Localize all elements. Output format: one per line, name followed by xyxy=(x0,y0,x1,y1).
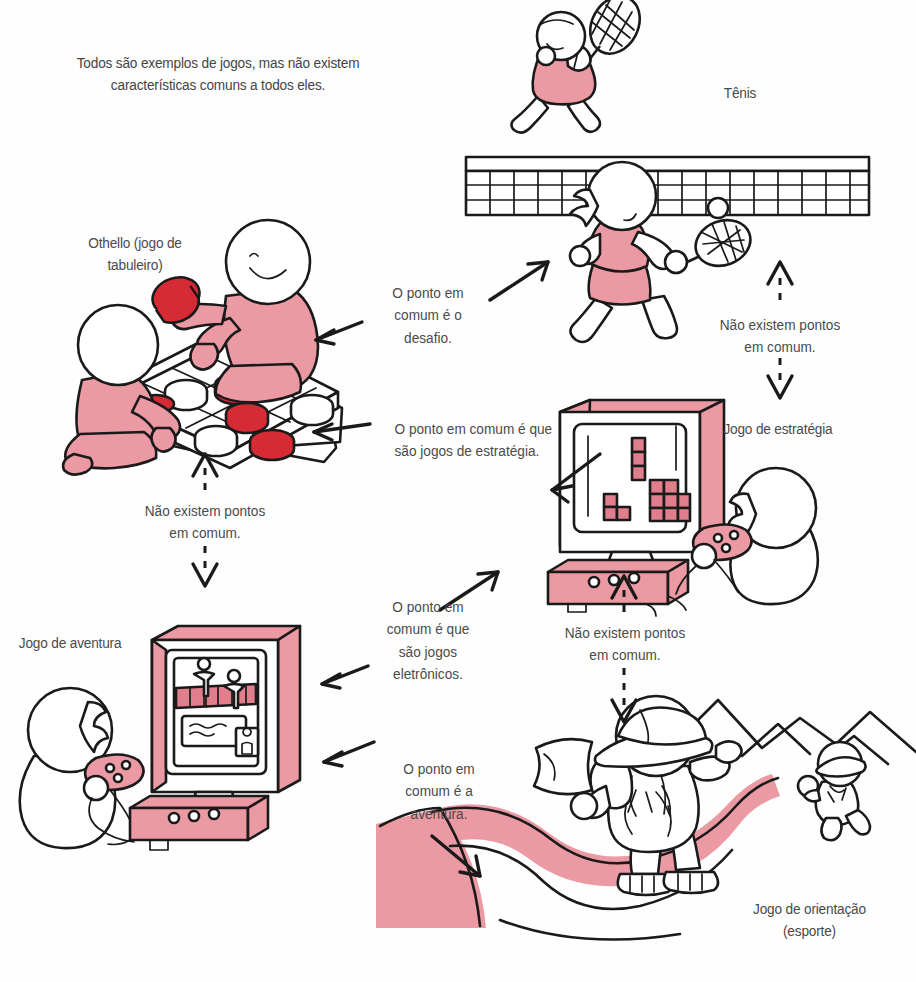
no-common-label-othello-aventura: Não existem pontos em comum. xyxy=(130,500,280,545)
connection-label-othello-estrategia: O ponto em comum é que são jogos de estr… xyxy=(394,418,577,463)
no-common-label-tenis-estrategia: Não existem pontos em comum. xyxy=(710,314,851,359)
figure-canvas: .ol{fill:none;stroke:#1a1a1a;stroke-widt… xyxy=(0,0,916,982)
hiker-distant xyxy=(798,742,870,840)
illustration-tennis xyxy=(466,0,869,342)
caption-orientacao: Jogo de orientação (esporte) xyxy=(724,898,896,942)
tennis-player-far xyxy=(511,0,649,133)
illustration-layer: .ol{fill:none;stroke:#1a1a1a;stroke-widt… xyxy=(0,0,916,982)
adventure-child xyxy=(20,688,144,848)
no-common-label-estrategia-orientacao: Não existem pontos em comum. xyxy=(550,622,700,667)
caption-tenis: Tênis xyxy=(670,82,811,104)
connection-label-aventura-estrategia: O ponto em comum é que são jogos eletrôn… xyxy=(375,596,481,686)
illustration-adventure xyxy=(20,626,300,850)
caption-estrategia: Jogo de estratégia xyxy=(723,418,890,440)
connection-label-aventura-orientacao: O ponto em comum é a aventura. xyxy=(387,758,491,825)
intro-text: Todos são exemplos de jogos, mas não exi… xyxy=(60,52,377,96)
connection-label-othello-tenis: O ponto em comum é o desafio. xyxy=(375,282,481,349)
tennis-ball xyxy=(708,198,728,218)
tennis-net xyxy=(466,157,869,215)
caption-othello: Othello (jogo de tabuleiro) xyxy=(51,232,218,276)
caption-aventura: Jogo de aventura xyxy=(19,632,177,654)
